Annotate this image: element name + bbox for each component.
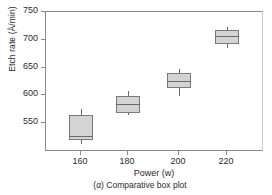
x-tick-label: 220 [210,156,242,166]
x-tick-mark [127,151,128,155]
y-axis-tick: 650 [0,67,45,68]
y-tick-label: 700 [23,33,38,43]
figure-caption: (α) Comparative box plot [20,180,260,190]
x-tick-mark [80,151,81,155]
plot-area [45,11,263,151]
y-tick-label: 550 [23,116,38,126]
y-axis-tick: 700 [0,39,45,40]
x-tick-label: 160 [64,156,96,166]
y-axis-tick: 600 [0,94,45,95]
whisker-lower [227,44,228,48]
box-plot-item[interactable] [46,12,264,152]
y-tick-label: 650 [23,61,38,71]
median-line [215,36,239,37]
y-tick-label: 750 [23,5,38,15]
y-axis-tick: 550 [0,122,45,123]
x-axis-title: Power (w) [45,168,263,178]
y-tick-label: 600 [23,88,38,98]
x-tick-label: 180 [111,156,143,166]
y-axis-tick: 750 [0,11,45,12]
y-axis-title: Etch rate (Å/min) [7,0,17,99]
x-tick-mark [178,151,179,155]
x-tick-label: 200 [162,156,194,166]
comparative-box-plot-figure: Etch rate (Å/min) 550600650700750 160180… [0,0,272,195]
x-tick-mark [226,151,227,155]
